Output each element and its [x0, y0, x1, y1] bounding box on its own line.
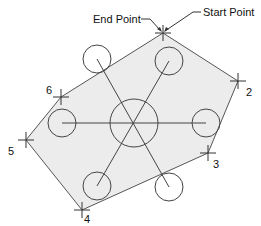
- boundary-diagram: End Point Start Point 2 3 4 5 6: [0, 0, 261, 226]
- start-point-leader: [165, 12, 201, 31]
- annotation-leaders: [141, 12, 201, 31]
- vertex-label-5: 5: [8, 145, 14, 157]
- vertex-label-4: 4: [84, 213, 90, 225]
- end-point-label: End Point: [93, 13, 141, 25]
- vertex-label-6: 6: [46, 84, 52, 96]
- start-point-arrowhead: [164, 27, 169, 32]
- vertex-label-2: 2: [246, 86, 252, 98]
- start-point-label: Start Point: [203, 6, 254, 18]
- vertex-label-3: 3: [213, 158, 219, 170]
